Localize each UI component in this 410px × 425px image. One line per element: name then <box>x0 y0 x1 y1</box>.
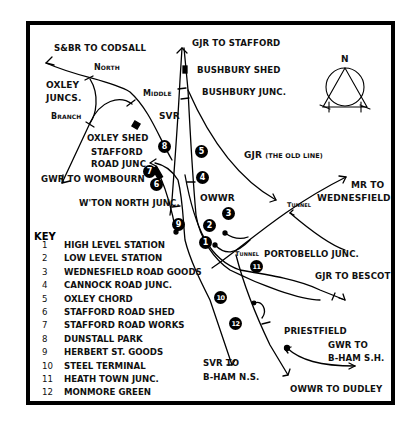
key-item-number: 11 <box>42 374 64 387</box>
marker-9[interactable]: 9 <box>172 218 185 231</box>
key-item: 4CANNOCK ROAD JUNC. <box>42 280 202 293</box>
label-north: North <box>94 63 120 73</box>
key-item-name: CANNOCK ROAD JUNC. <box>64 280 172 293</box>
marker-6[interactable]: 6 <box>150 178 163 191</box>
label-oxley-juncs-1: OXLEY <box>46 80 79 90</box>
label-svr: SVR <box>159 111 180 121</box>
marker-5[interactable]: 5 <box>195 145 208 158</box>
key-item: 2LOW LEVEL STATION <box>42 253 202 266</box>
marker-11[interactable]: 11 <box>250 260 263 273</box>
label-stafford-road-2: ROAD JUNC <box>91 159 146 169</box>
marker-8[interactable]: 8 <box>158 140 171 153</box>
label-middle: Middle <box>143 89 172 99</box>
key-item-number: 1 <box>42 240 64 253</box>
key-item: 10STEEL TERMINAL <box>42 361 202 374</box>
key-item: 1HIGH LEVEL STATION <box>42 240 202 253</box>
key-item-number: 4 <box>42 280 64 293</box>
label-tunnel-2: Tunnel <box>235 249 259 259</box>
key-item-number: 8 <box>42 334 64 347</box>
key-item-number: 5 <box>42 294 64 307</box>
label-gjr: GJR <box>244 150 262 160</box>
key-item-name: HERBERT ST. GOODS <box>64 347 163 360</box>
key-item-name: MONMORE GREEN <box>64 387 151 400</box>
label-svr-bham-1: SVR TO <box>203 358 239 368</box>
marker-7[interactable]: 7 <box>143 165 156 178</box>
compass-north-label: N <box>341 54 349 64</box>
key-item-name: DUNSTALL PARK <box>64 334 143 347</box>
label-branch: Branch <box>51 112 81 122</box>
marker-10[interactable]: 10 <box>214 291 227 304</box>
key-item: 7STAFFORD ROAD WORKS <box>42 320 202 333</box>
key-item-number: 6 <box>42 307 64 320</box>
key-item-name: OXLEY CHORD <box>64 294 133 307</box>
key-item: 9HERBERT ST. GOODS <box>42 347 202 360</box>
label-gwr-bham-1: GWR TO <box>328 340 368 350</box>
label-mr-1: MR TO <box>351 180 384 190</box>
label-svr-bham-2: B-HAM N.S. <box>203 372 259 382</box>
label-old-line: (THE OLD LINE) <box>265 152 323 160</box>
key-item-name: HEATH TOWN JUNC. <box>64 374 159 387</box>
key-item: 12MONMORE GREEN <box>42 387 202 400</box>
label-stafford-road-1: STAFFORD <box>91 147 143 157</box>
key-item: 8DUNSTALL PARK <box>42 334 202 347</box>
key-item: 11HEATH TOWN JUNC. <box>42 374 202 387</box>
marker-12[interactable]: 12 <box>229 317 242 330</box>
label-mr-2: WEDNESFIELD <box>317 193 391 203</box>
label-gjr-stafford: GJR TO STAFFORD <box>192 38 280 48</box>
key-item-name: HIGH LEVEL STATION <box>64 240 165 253</box>
label-sbr-codsall: S&BR TO CODSALL <box>54 43 146 53</box>
label-owwr: OWWR <box>200 193 235 203</box>
label-wton-north: W'TON NORTH JUNC. <box>79 198 180 208</box>
marker-4[interactable]: 4 <box>196 171 209 184</box>
label-gwr-bham-2: B-HAM S.H. <box>328 353 384 363</box>
label-gwr-wombourn: GWR TO WOMBOURN <box>41 174 145 184</box>
label-bushbury-shed: BUSHBURY SHED <box>197 65 281 75</box>
label-gjr-bescot: GJR TO BESCOT <box>315 271 390 281</box>
key-item-name: WEDNESFIELD ROAD GOODS <box>64 267 202 280</box>
key-list: 1HIGH LEVEL STATION 2LOW LEVEL STATION 3… <box>42 240 202 401</box>
label-oxley-shed: OXLEY SHED <box>87 133 149 143</box>
marker-3[interactable]: 3 <box>222 207 235 220</box>
key-item-name: STEEL TERMINAL <box>64 361 146 374</box>
key-item-number: 9 <box>42 347 64 360</box>
marker-2[interactable]: 2 <box>203 219 216 232</box>
key-item-name: STAFFORD ROAD SHED <box>64 307 175 320</box>
label-oxley-juncs-2: JUNCS. <box>46 93 81 103</box>
key-item-name: LOW LEVEL STATION <box>64 253 162 266</box>
label-gjr-old: GJR (THE OLD LINE) <box>244 150 323 161</box>
label-owwr-dudley: OWWR TO DUDLEY <box>290 384 382 394</box>
label-priestfield: PRIESTFIELD <box>284 326 347 336</box>
key-item: 5OXLEY CHORD <box>42 294 202 307</box>
key-item-number: 10 <box>42 361 64 374</box>
key-item-number: 2 <box>42 253 64 266</box>
label-bushbury-junc: BUSHBURY JUNC. <box>202 87 286 97</box>
key-item-number: 3 <box>42 267 64 280</box>
label-portobello: PORTOBELLO JUNC. <box>264 249 359 259</box>
key-item: 6STAFFORD ROAD SHED <box>42 307 202 320</box>
key-item-name: STAFFORD ROAD WORKS <box>64 320 185 333</box>
label-tunnel-1: Tunnel <box>287 200 311 210</box>
key-item: 3WEDNESFIELD ROAD GOODS <box>42 267 202 280</box>
key-item-number: 12 <box>42 387 64 400</box>
key-item-number: 7 <box>42 320 64 333</box>
